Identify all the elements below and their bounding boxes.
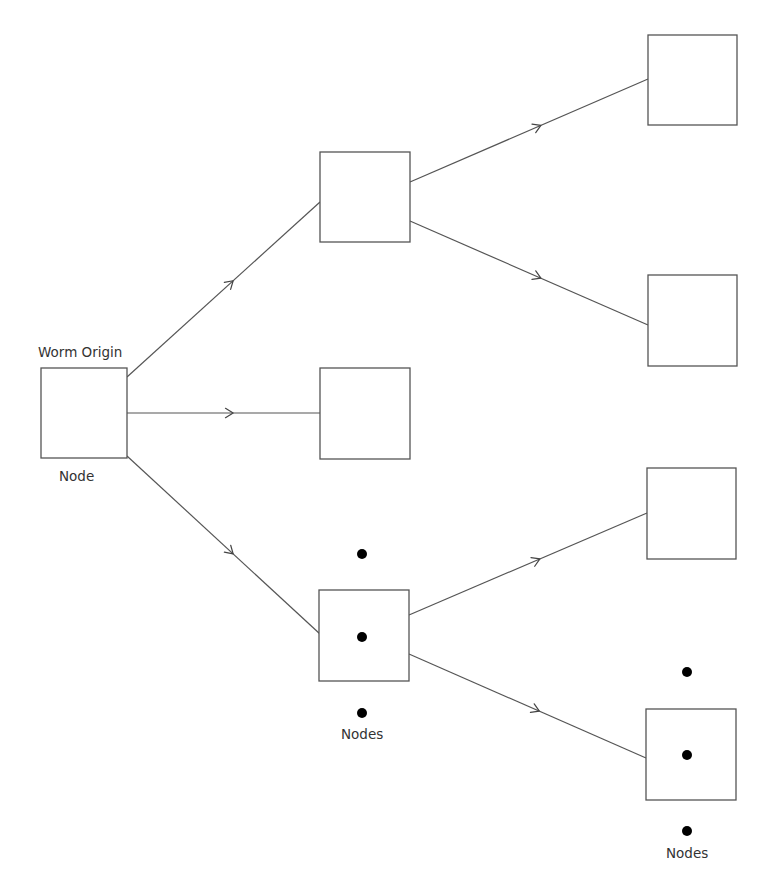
nodes-label-right: Nodes [666,845,708,861]
edge-n1-to-n4 [410,79,648,182]
edge-n3-to-n7 [409,654,646,758]
ellipsis-dot [357,632,367,642]
edge-origin-to-n1 [127,202,320,377]
ellipsis-dot [682,826,692,836]
origin-node-label: Node [59,468,94,484]
edge-n1-to-n5 [410,221,648,325]
nodes-label-middle: Nodes [341,726,383,742]
ellipsis-dot [357,708,367,718]
edge-n3-to-n6 [409,513,647,615]
node-box-n4 [648,35,737,125]
edge-origin-to-n3 [127,456,320,634]
node-box-n5 [648,275,737,366]
node-box-n1 [320,152,410,242]
ellipsis-dot [357,549,367,559]
node-box-n6 [647,468,736,559]
nodes [41,35,737,800]
worm-origin-label: Worm Origin [38,344,122,360]
node-box-origin [41,368,127,458]
ellipsis-dot [682,750,692,760]
node-box-n2 [320,368,410,459]
ellipsis-dot [682,667,692,677]
worm-propagation-diagram: Worm Origin Node Nodes Nodes [0,0,772,891]
